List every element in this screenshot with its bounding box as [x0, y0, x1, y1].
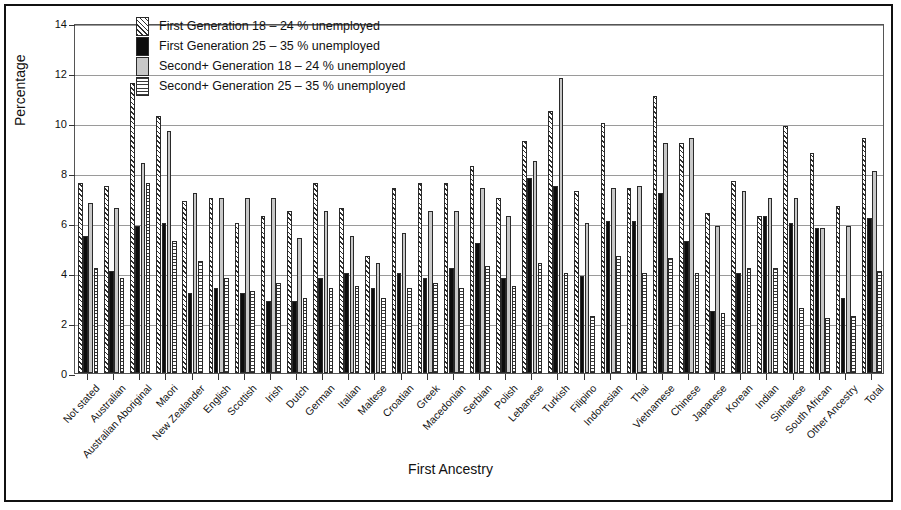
bar: [695, 273, 700, 373]
bar: [135, 226, 140, 374]
bar: [501, 278, 506, 373]
bar: [198, 261, 203, 374]
bar: [642, 273, 647, 373]
bar: [679, 143, 684, 373]
bar: [318, 278, 323, 373]
bar: [313, 183, 318, 373]
bar: [392, 188, 397, 373]
bar: [78, 183, 83, 373]
bar-group: [653, 25, 673, 373]
bar: [825, 318, 830, 373]
legend-label: Second+ Generation 18 – 24 % unemployed: [159, 59, 405, 73]
bar: [789, 223, 794, 373]
bar-group: [862, 25, 882, 373]
x-axis-title: First Ancestry: [6, 461, 895, 477]
bar-group: [601, 25, 621, 373]
bar-group: [705, 25, 725, 373]
x-tick: [505, 374, 506, 380]
bar: [250, 291, 255, 374]
bar: [731, 181, 736, 374]
bar-group: [418, 25, 438, 373]
x-tick: [845, 374, 846, 380]
x-tick: [427, 374, 428, 380]
bar: [240, 293, 245, 373]
bar: [553, 186, 558, 374]
x-tick: [610, 374, 611, 380]
legend-item: Second+ Generation 25 – 35 % unemployed: [136, 76, 405, 96]
bar: [763, 216, 768, 374]
bar: [658, 193, 663, 373]
bar: [877, 271, 882, 374]
bar: [344, 273, 349, 373]
bar: [773, 268, 778, 373]
x-tick: [139, 374, 140, 380]
x-tick: [636, 374, 637, 380]
bar: [757, 216, 762, 374]
bar: [423, 278, 428, 373]
bar: [836, 206, 841, 374]
bar: [365, 256, 370, 374]
bar-group: [104, 25, 124, 373]
chart-frame: Percentage 02468101214 Not statedAustral…: [4, 4, 893, 502]
bar: [182, 201, 187, 374]
bar: [710, 311, 715, 374]
bar: [653, 96, 658, 374]
bar: [371, 288, 376, 373]
bar: [83, 236, 88, 374]
bar: [303, 298, 308, 373]
x-tick: [793, 374, 794, 380]
bar: [668, 258, 673, 373]
bar: [867, 218, 872, 373]
bar: [705, 213, 710, 373]
y-tick-label: 10: [41, 118, 67, 130]
x-tick-label: Thai: [628, 382, 651, 405]
legend-item: First Generation 25 – 35 % unemployed: [136, 36, 405, 56]
bar: [114, 208, 119, 373]
bar: [454, 211, 459, 374]
legend-item: First Generation 18 – 24 % unemployed: [136, 16, 405, 36]
y-tick-label: 12: [41, 68, 67, 80]
bar-group: [548, 25, 568, 373]
x-tick-label: Irish: [262, 382, 284, 405]
bar: [810, 153, 815, 373]
bar: [794, 198, 799, 373]
bar-group: [731, 25, 751, 373]
bar: [172, 241, 177, 374]
bar: [339, 208, 344, 373]
bar: [841, 298, 846, 373]
bar-group: [444, 25, 464, 373]
bar: [329, 288, 334, 373]
bar: [209, 198, 214, 373]
bar: [506, 216, 511, 374]
y-tick-label: 0: [41, 368, 67, 380]
bar: [459, 288, 464, 373]
bar: [480, 188, 485, 373]
bar: [872, 171, 877, 374]
bar: [188, 293, 193, 373]
bar: [684, 241, 689, 374]
bar-group: [496, 25, 516, 373]
legend-label: First Generation 18 – 24 % unemployed: [159, 19, 380, 33]
bar: [162, 223, 167, 373]
bar: [721, 313, 726, 373]
bar: [606, 221, 611, 374]
x-tick: [740, 374, 741, 380]
bar: [433, 283, 438, 373]
legend-swatch-horizontal-hatch: [136, 77, 149, 96]
bar: [120, 278, 125, 373]
bar-group: [627, 25, 647, 373]
bar: [851, 316, 856, 374]
y-tick-label: 8: [41, 168, 67, 180]
bar: [271, 198, 276, 373]
x-tick: [584, 374, 585, 380]
bar: [616, 256, 621, 374]
bar: [245, 198, 250, 373]
bar: [141, 163, 146, 373]
bar: [402, 233, 407, 373]
bar: [219, 198, 224, 373]
x-tick: [165, 374, 166, 380]
x-tick: [531, 374, 532, 380]
bar: [428, 211, 433, 374]
bar: [522, 141, 527, 374]
bar: [214, 288, 219, 373]
